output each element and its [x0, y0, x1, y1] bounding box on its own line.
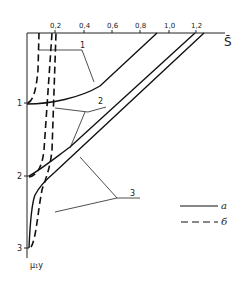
curve-1b — [28, 33, 39, 103]
x-ticks: 0,2 0,4 0,6 0,8 1,0 1,2 — [50, 22, 202, 33]
tick-1-2: 1,2 — [191, 22, 202, 30]
curve-3b — [31, 33, 56, 247]
tick-0-4: 0,4 — [79, 22, 91, 30]
level-3: 3 — [17, 244, 22, 253]
curve-label-1: 1 — [80, 41, 85, 50]
legend-dashed-label: б — [221, 216, 228, 227]
curve-label-3: 3 — [130, 189, 135, 198]
tick-0-2: 0,2 — [50, 22, 61, 30]
series-b — [28, 33, 56, 247]
curve-3a — [29, 33, 204, 248]
chart-svg: 0,2 0,4 0,6 0,8 1,0 1,2 S̄ 1 2 3 μ₁y 1 2… — [0, 0, 243, 288]
x-axis-label: S̄ — [224, 35, 232, 49]
level-1: 1 — [17, 99, 22, 108]
curve-1a — [27, 33, 157, 104]
series-a — [27, 33, 204, 248]
curve-label-2: 2 — [98, 97, 103, 106]
tick-0-8: 0,8 — [135, 22, 146, 30]
legend-solid-label: а — [221, 200, 227, 211]
leaders — [39, 50, 140, 212]
chart: 0,2 0,4 0,6 0,8 1,0 1,2 S̄ 1 2 3 μ₁y 1 2… — [0, 0, 243, 288]
level-2: 2 — [17, 172, 22, 181]
curve-2b — [29, 33, 52, 177]
y-axis-label: μ₁y — [30, 261, 43, 270]
tick-1-0: 1,0 — [164, 22, 175, 30]
tick-0-6: 0,6 — [107, 22, 119, 30]
legend: а б — [180, 200, 228, 227]
